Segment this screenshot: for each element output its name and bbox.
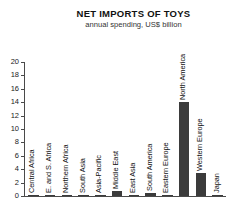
y-axis-tick-label: 4 (15, 165, 19, 173)
chart-header: NET IMPORTS OF TOYS annual spending, US$… (0, 8, 233, 30)
bar-category-label: Western Europe (195, 118, 204, 171)
y-axis-tick-label: 6 (15, 152, 19, 160)
bar-column[interactable]: Northern Africa (62, 56, 72, 196)
bar-category-label: South America (145, 143, 154, 190)
y-axis-tick-label: 20 (11, 58, 19, 66)
chart-subtitle: annual spending, US$ billion (34, 20, 233, 30)
plot-area: 02468101214161820 Central AfricaE. and S… (0, 56, 233, 208)
bar-category-label: Northern Africa (61, 144, 70, 193)
y-axis-tick-label: 16 (11, 85, 19, 93)
bar-category-label: East Asia (128, 162, 137, 192)
bar-rect[interactable] (62, 195, 72, 196)
bar-column[interactable]: Asia-Pacific (95, 56, 105, 196)
bar-rect[interactable] (95, 195, 105, 196)
bar-category-label: Japan (212, 173, 221, 193)
bar-series: Central AfricaE. and S. AfricaNorthern A… (25, 56, 226, 197)
y-axis-tick-label: 10 (11, 125, 19, 133)
y-axis-tick-label: 14 (11, 98, 19, 106)
y-axis-tick-label: 12 (11, 112, 19, 120)
bar-rect[interactable] (196, 173, 206, 196)
bar-column[interactable]: South America (145, 56, 155, 196)
bar-column[interactable]: Japan (212, 56, 222, 196)
y-axis-tick-label: 0 (15, 192, 19, 200)
bar-column[interactable]: Middle East (112, 56, 122, 196)
bar-rect[interactable] (45, 195, 55, 196)
bar-rect[interactable] (145, 193, 155, 196)
bar-rect[interactable] (129, 195, 139, 196)
bar-category-label: South Asia (78, 158, 87, 193)
y-axis: 02468101214161820 (0, 56, 24, 208)
bar-column[interactable]: North America (179, 56, 189, 196)
chart-title: NET IMPORTS OF TOYS (34, 8, 233, 19)
bar-rect[interactable] (212, 195, 222, 196)
bar-rect[interactable] (112, 191, 122, 196)
y-axis-tick-label: 8 (15, 139, 19, 147)
bar-category-label: Middle East (111, 151, 120, 189)
bar-column[interactable]: Central Africa (28, 56, 38, 196)
bar-rect[interactable] (78, 195, 88, 196)
bar-column[interactable]: East Asia (129, 56, 139, 196)
bar-rect[interactable] (28, 195, 38, 196)
y-axis-tick-label: 18 (11, 72, 19, 80)
bar-column[interactable]: Eastern Europe (162, 56, 172, 196)
bar-column[interactable]: Western Europe (196, 56, 206, 196)
bar-column[interactable]: E. and S. Africa (45, 56, 55, 196)
bar-column[interactable]: South Asia (78, 56, 88, 196)
bar-rect[interactable] (162, 195, 172, 196)
bar-rect[interactable] (179, 102, 189, 196)
bar-category-label: Asia-Pacific (94, 155, 103, 193)
net-imports-of-toys-chart: NET IMPORTS OF TOYS annual spending, US$… (0, 0, 233, 215)
y-axis-tick-label: 2 (15, 179, 19, 187)
bar-category-label: E. and S. Africa (44, 143, 53, 193)
bar-category-label: North America (178, 54, 187, 100)
bar-category-label: Eastern Europe (161, 142, 170, 193)
bar-category-label: Central Africa (27, 149, 36, 193)
